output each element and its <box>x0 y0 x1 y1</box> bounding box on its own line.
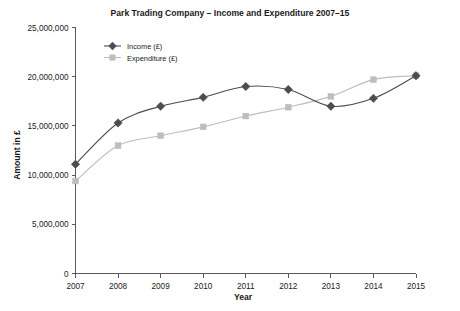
data-point-marker <box>285 104 291 110</box>
chart-title: Park Trading Company – Income and Expend… <box>111 8 350 18</box>
data-point-marker <box>284 85 292 93</box>
legend-item: Expenditure (£) <box>104 54 178 63</box>
x-axis-ticks: 200720082009201020112012201320142015 <box>66 274 425 291</box>
series-line <box>76 76 417 181</box>
chart-container: Park Trading Company – Income and Expend… <box>0 0 460 311</box>
legend-label: Expenditure (£) <box>127 54 178 63</box>
x-tick-label: 2007 <box>66 282 85 291</box>
y-axis-ticks: 05,000,00010,000,00015,000,00020,000,000… <box>28 24 76 279</box>
y-tick-label: 10,000,000 <box>28 171 69 180</box>
x-tick-label: 2011 <box>237 282 255 291</box>
data-point-marker <box>73 178 79 184</box>
income-expenditure-line-chart: Park Trading Company – Income and Expend… <box>0 0 460 311</box>
data-point-marker <box>199 93 207 101</box>
data-point-marker <box>109 42 117 50</box>
data-point-marker <box>114 119 122 127</box>
x-tick-label: 2015 <box>407 282 426 291</box>
y-tick-label: 15,000,000 <box>28 122 69 131</box>
y-tick-label: 20,000,000 <box>28 73 69 82</box>
y-tick-label: 25,000,000 <box>28 24 69 33</box>
series-layer <box>71 72 420 184</box>
y-tick-label: 0 <box>64 270 69 279</box>
legend-label: Income (£) <box>127 42 162 51</box>
data-point-marker <box>243 113 249 119</box>
data-point-marker <box>327 102 335 110</box>
x-tick-label: 2014 <box>364 282 383 291</box>
data-point-marker <box>369 94 377 102</box>
x-tick-label: 2009 <box>152 282 171 291</box>
legend-item: Income (£) <box>104 42 162 51</box>
data-point-marker <box>110 55 115 60</box>
x-tick-label: 2013 <box>322 282 341 291</box>
data-point-marker <box>200 124 206 130</box>
data-point-marker <box>242 82 250 90</box>
y-axis-title: Amount in £ <box>12 130 22 180</box>
data-point-marker <box>158 133 164 139</box>
data-point-marker <box>371 77 377 83</box>
data-point-marker <box>115 143 121 149</box>
chart-legend: Income (£)Expenditure (£) <box>104 42 178 63</box>
x-tick-label: 2008 <box>109 282 128 291</box>
x-tick-label: 2010 <box>194 282 213 291</box>
y-tick-label: 5,000,000 <box>32 220 69 229</box>
data-point-marker <box>156 102 164 110</box>
series-income <box>71 72 420 169</box>
x-axis-title: Year <box>234 292 253 302</box>
x-tick-label: 2012 <box>279 282 298 291</box>
data-point-marker <box>328 93 334 99</box>
